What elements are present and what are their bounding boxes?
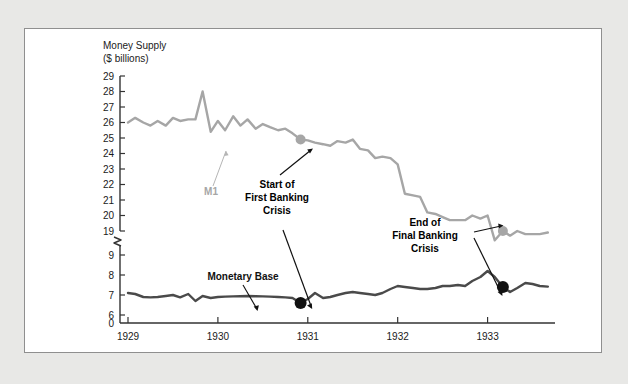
m1-leader-line (213, 151, 226, 186)
y-tick-label-lower: 9 (108, 250, 114, 261)
y-tick-label-upper: 22 (103, 179, 115, 190)
annotation-start-arrow-m1 (280, 150, 311, 175)
series-line-m1 (128, 92, 548, 241)
y-tick-label-upper: 21 (103, 195, 115, 206)
chart-card: Money Supply($ billions)1920212223242526… (24, 28, 602, 353)
data-point-marker (296, 135, 306, 145)
annotation-start-arrowhead-base (307, 303, 312, 309)
y-tick-label-lower: 8 (108, 270, 114, 281)
x-tick-label: 1931 (297, 331, 320, 342)
annotation-start-crisis-line: Start of (260, 179, 296, 190)
monetary-base-leader-arrow (254, 305, 259, 311)
y-tick-label-upper: 26 (103, 117, 115, 128)
y-tick-label-upper: 27 (103, 102, 115, 113)
y-axis-break-icon (114, 237, 121, 246)
y-axis-title-line1: Money Supply (103, 40, 166, 51)
annotation-end-crisis-line: Crisis (411, 243, 439, 254)
series-label-monetary-base: Monetary Base (207, 271, 279, 282)
y-tick-label-upper: 28 (103, 86, 115, 97)
annotation-start-arrow-base (283, 230, 311, 306)
annotation-end-arrow-base (474, 238, 501, 293)
annotation-start-crisis-line: Crisis (263, 205, 291, 216)
y-tick-label-lower: 7 (108, 290, 114, 301)
x-tick-label: 1929 (117, 331, 140, 342)
y-tick-label-zero: 0 (108, 318, 114, 329)
money-supply-chart: Money Supply($ billions)1920212223242526… (25, 29, 603, 354)
x-tick-label: 1932 (387, 331, 410, 342)
y-tick-label-upper: 29 (103, 71, 115, 82)
y-axis-title-line2: ($ billions) (103, 53, 149, 64)
annotation-end-crisis-line: Final Banking (392, 230, 458, 241)
y-tick-label-upper: 20 (103, 210, 115, 221)
series-label-m1: M1 (204, 186, 218, 197)
y-tick-label-upper: 24 (103, 148, 115, 159)
series-line-monetary-base (128, 271, 548, 303)
y-tick-label-upper: 19 (103, 226, 115, 237)
x-tick-label: 1933 (476, 331, 499, 342)
annotation-start-crisis-line: First Banking (245, 192, 309, 203)
annotation-end-arrow-m1 (474, 226, 501, 232)
x-tick-label: 1930 (207, 331, 230, 342)
annotation-end-crisis-line: End of (409, 217, 441, 228)
y-tick-label-upper: 25 (103, 133, 115, 144)
data-point-marker (295, 297, 307, 309)
y-tick-label-upper: 23 (103, 164, 115, 175)
